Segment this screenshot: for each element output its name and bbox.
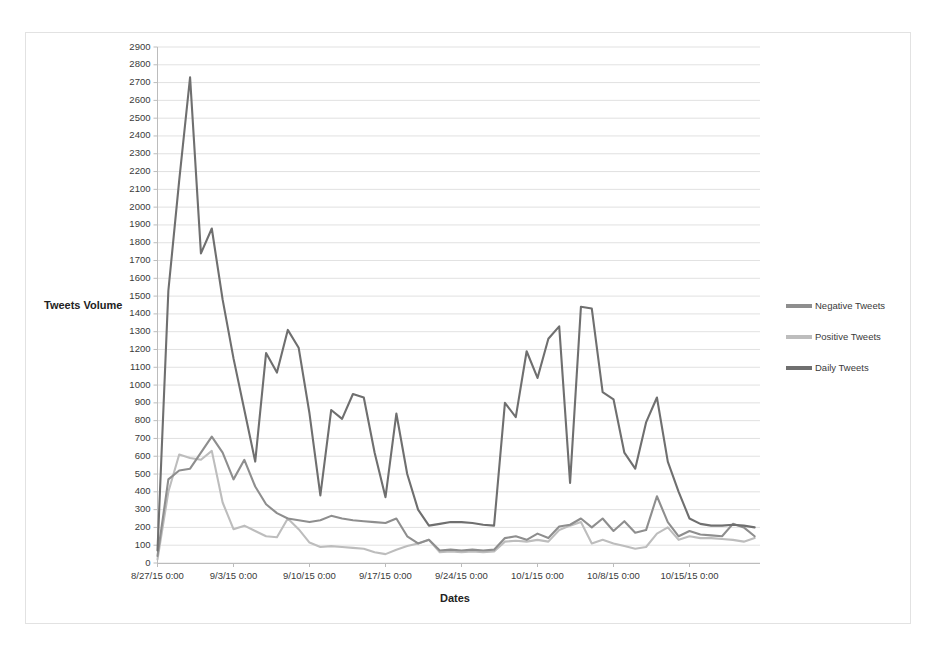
y-axis-tick-label: 2200 — [129, 165, 150, 176]
legend-label-positive-tweets: Positive Tweets — [815, 331, 881, 342]
y-axis-tick-label: 700 — [135, 432, 151, 443]
x-axis-tick-label: 10/15/15 0:00 — [660, 570, 718, 581]
y-axis-tick-label: 2300 — [129, 147, 150, 158]
x-axis-tick-label: 9/3/15 0:00 — [210, 570, 258, 581]
y-axis-tick-label: 500 — [135, 468, 151, 479]
y-axis-tick-label: 1500 — [129, 290, 150, 301]
y-axis-tick-label: 1400 — [129, 307, 150, 318]
y-axis-tick-label: 2000 — [129, 201, 150, 212]
y-axis-tick-label: 1200 — [129, 343, 150, 354]
y-axis-tick-label: 1300 — [129, 325, 150, 336]
y-axis-tick-label: 0 — [145, 557, 150, 568]
series-line-negative-tweets — [158, 437, 755, 556]
y-axis-tick-label: 400 — [135, 485, 151, 496]
x-axis-tick-label: 8/27/15 0:00 — [131, 570, 184, 581]
y-axis-tick-label: 2600 — [129, 94, 150, 105]
y-axis-tick-label: 1000 — [129, 379, 150, 390]
y-axis-tick-label: 600 — [135, 450, 151, 461]
tweets-volume-line-chart: 0100200300400500600700800900100011001200… — [0, 0, 936, 655]
y-axis-title: Tweets Volume — [44, 299, 122, 311]
x-axis-title: Dates — [440, 592, 470, 604]
y-axis-tick-label: 2100 — [129, 183, 150, 194]
y-axis-tick-labels: 0100200300400500600700800900100011001200… — [129, 41, 150, 568]
legend-label-negative-tweets: Negative Tweets — [815, 300, 885, 311]
x-axis-tick-label: 10/1/15 0:00 — [511, 570, 564, 581]
y-axis-tick-label: 100 — [135, 539, 151, 550]
y-axis-tick-label: 2500 — [129, 112, 150, 123]
y-axis-tick-label: 2900 — [129, 41, 150, 52]
y-axis-tick-label: 2700 — [129, 76, 150, 87]
y-axis-tick-label: 1900 — [129, 218, 150, 229]
x-axis-tick-label: 10/8/15 0:00 — [587, 570, 640, 581]
y-axis-tick-label: 800 — [135, 414, 151, 425]
y-axis-tick-label: 1800 — [129, 236, 150, 247]
series-lines — [158, 77, 755, 559]
y-axis-tick-label: 200 — [135, 521, 151, 532]
y-axis-tick-label: 1100 — [130, 361, 150, 372]
y-axis-tick-label: 300 — [135, 503, 151, 514]
y-axis-tick-label: 1700 — [129, 254, 150, 265]
gridlines — [154, 47, 761, 563]
y-axis-tick-label: 2400 — [129, 129, 150, 140]
y-axis-tick-label: 900 — [135, 396, 151, 407]
y-axis-tick-label: 1600 — [129, 272, 150, 283]
x-axis-tick-label: 9/24/15 0:00 — [435, 570, 488, 581]
x-axis-tick-label: 9/10/15 0:00 — [283, 570, 336, 581]
x-axis-tick-labels: 8/27/15 0:009/3/15 0:009/10/15 0:009/17/… — [131, 570, 718, 581]
y-axis-tick-label: 2800 — [129, 58, 150, 69]
chart-legend: Negative TweetsPositive TweetsDaily Twee… — [786, 300, 885, 373]
x-axis-tick-label: 9/17/15 0:00 — [359, 570, 412, 581]
legend-label-daily-tweets: Daily Tweets — [815, 362, 869, 373]
